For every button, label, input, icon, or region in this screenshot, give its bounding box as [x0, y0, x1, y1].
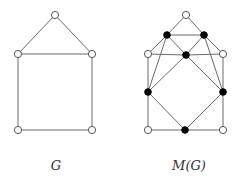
vertex-ac-filled	[201, 32, 208, 39]
edge-ac-bc	[186, 35, 204, 55]
vertex-b-open	[14, 50, 21, 57]
edge-ac-ce	[204, 35, 223, 92]
vertex-e-open	[219, 126, 226, 133]
graph-MG-vertices	[144, 11, 226, 133]
vertex-ab-filled	[164, 32, 171, 39]
graph-MG-edges	[148, 15, 223, 130]
vertex-bd-filled	[145, 89, 152, 96]
edge-a-ab	[167, 15, 186, 35]
vertex-d-open	[144, 126, 151, 133]
label-G: G	[51, 158, 61, 173]
graph-canvas	[0, 0, 233, 181]
graph-G-vertices	[14, 11, 95, 133]
edge-ab-bc	[167, 35, 186, 55]
edge-bc-ce	[186, 55, 223, 92]
edge-a-c	[55, 15, 92, 54]
edge-bd-de	[148, 92, 185, 130]
graph-G-edges	[18, 15, 92, 130]
vertex-bc-filled	[183, 52, 190, 59]
vertex-b-open	[144, 50, 151, 57]
vertex-e-open	[88, 126, 95, 133]
edge-b-bc	[148, 54, 186, 55]
edge-ce-de	[185, 92, 223, 130]
vertex-a-open	[51, 11, 58, 18]
vertex-c-open	[88, 50, 95, 57]
edge-bc-c	[186, 54, 223, 55]
vertex-ce-filled	[220, 89, 227, 96]
vertex-c-open	[219, 50, 226, 57]
vertex-de-filled	[182, 127, 189, 134]
edge-a-b	[18, 15, 55, 54]
vertex-d-open	[14, 126, 21, 133]
graph-MG	[144, 11, 226, 133]
graph-G	[14, 11, 95, 133]
vertex-a-open	[182, 11, 189, 18]
label-MG: M(G)	[172, 158, 206, 173]
edge-ab-bd	[148, 35, 167, 92]
